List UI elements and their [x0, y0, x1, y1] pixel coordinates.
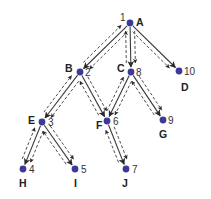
- edge-solid-arrow: [130, 27, 131, 67]
- visit-order-label: 6: [113, 116, 119, 127]
- node-J: 7J: [122, 164, 138, 189]
- node-dot: [176, 68, 183, 75]
- node-dot: [77, 69, 84, 76]
- edge-E-I: [43, 125, 74, 165]
- edge-C-G: [132, 75, 162, 116]
- edge-solid-arrow: [133, 26, 176, 68]
- dfs-graph-diagram: 1A2B8C10D3E6F9G4H5I7J: [0, 0, 211, 199]
- node-letter-label: J: [122, 177, 128, 189]
- node-C: 8C: [117, 62, 142, 78]
- visit-order-label: 3: [48, 117, 54, 128]
- traversal-backtrack-arrow: [126, 31, 127, 63]
- node-I: 5I: [72, 164, 87, 189]
- node-letter-label: D: [181, 81, 189, 93]
- visit-order-label: 1: [120, 12, 126, 23]
- node-letter-label: H: [19, 177, 27, 189]
- node-dot: [20, 166, 27, 173]
- node-letter-label: C: [117, 62, 125, 74]
- node-E: 3E: [28, 114, 54, 128]
- node-letter-label: F: [96, 119, 103, 131]
- edge-solid-arrow: [45, 75, 78, 118]
- edge-solid-arrow: [133, 75, 160, 116]
- node-D: 10D: [176, 66, 196, 93]
- traversal-backtrack-arrow: [107, 77, 124, 111]
- node-dot: [127, 20, 134, 27]
- visit-order-label: 7: [132, 164, 138, 175]
- visit-order-label: 8: [136, 67, 142, 78]
- edge-A-D: [133, 26, 176, 68]
- node-letter-label: B: [65, 62, 73, 74]
- traversal-backtrack-arrow: [43, 131, 66, 164]
- edge-B-E: [44, 75, 79, 118]
- traversal-backtrack-arrow: [80, 81, 99, 115]
- visit-order-label: 5: [81, 164, 87, 175]
- edges-layer: [22, 25, 175, 165]
- traversal-descend-arrow: [115, 81, 132, 115]
- node-letter-label: I: [74, 177, 77, 189]
- node-dot: [123, 166, 130, 173]
- node-letter-label: E: [28, 114, 35, 126]
- traversal-descend-arrow: [135, 31, 136, 63]
- edge-E-H: [22, 126, 43, 165]
- traversal-backtrack-arrow: [44, 76, 72, 112]
- node-F: 6F: [96, 116, 119, 131]
- traversal-descend-arrow: [133, 32, 170, 68]
- traversal-backtrack-arrow: [132, 81, 155, 115]
- traversal-descend-arrow: [88, 77, 107, 111]
- edge-solid-arrow: [109, 76, 129, 117]
- node-H: 4H: [19, 164, 35, 189]
- node-dot: [104, 118, 111, 125]
- node-A: 1A: [120, 12, 144, 28]
- visit-order-label: 2: [85, 67, 91, 78]
- traversal-descend-arrow: [51, 81, 79, 117]
- nodes-layer: 1A2B8C10D3E6F9G4H5I7J: [19, 12, 196, 189]
- edge-F-J: [106, 125, 127, 165]
- node-dot: [72, 166, 79, 173]
- visit-order-label: 10: [184, 66, 196, 77]
- visit-order-label: 4: [29, 164, 35, 175]
- edge-C-F: [107, 76, 132, 117]
- node-letter-label: G: [159, 128, 167, 140]
- edge-solid-arrow: [82, 76, 105, 117]
- traversal-descend-arrow: [139, 76, 162, 110]
- edge-solid-arrow: [25, 126, 41, 165]
- node-G: 9G: [159, 115, 174, 140]
- node-dot: [160, 117, 167, 124]
- visit-order-label: 9: [168, 115, 174, 126]
- edge-solid-arrow: [44, 125, 72, 165]
- node-dot: [39, 119, 46, 126]
- traversal-descend-arrow: [50, 126, 73, 159]
- node-dot: [128, 69, 135, 76]
- edge-solid-arrow: [108, 125, 124, 165]
- edge-B-F: [80, 76, 107, 117]
- node-letter-label: A: [136, 16, 144, 28]
